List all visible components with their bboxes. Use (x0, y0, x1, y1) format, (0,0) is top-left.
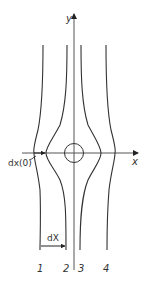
trajectory-line-4 (106, 45, 115, 250)
trajectory-label-1: 1 (37, 263, 43, 274)
trajectory-label-2: 2 (63, 263, 69, 274)
trajectory-line-1 (34, 45, 43, 250)
trajectory-line-3 (80, 45, 101, 250)
y-axis-label: y (65, 13, 73, 24)
initial-offset-label: dx(0) (8, 158, 32, 168)
final-offset-label: dX (47, 233, 59, 243)
trajectory-line-2 (46, 45, 67, 250)
streamline-diagram: y x dx(0) dX 1 2 3 4 (0, 0, 149, 283)
trajectory-label-4: 4 (103, 263, 109, 274)
x-axis-label: x (131, 156, 138, 167)
trajectory-label-3: 3 (78, 263, 84, 274)
